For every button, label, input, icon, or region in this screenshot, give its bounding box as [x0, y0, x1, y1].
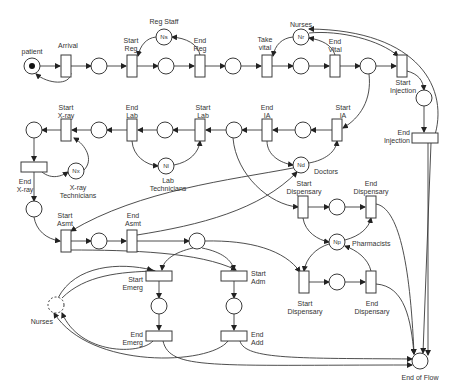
label-start-dispensary-top: Start Dispensary	[286, 180, 321, 196]
label-start-adm: Start Adm	[251, 270, 266, 286]
label-reg-staff: Reg Staff	[149, 18, 178, 26]
pharmacists-token: Np	[333, 239, 341, 245]
place	[416, 90, 432, 106]
transition-end-dispensary-bottom	[366, 271, 376, 293]
place	[329, 274, 345, 290]
place	[91, 58, 107, 74]
place	[225, 58, 241, 74]
label-start-lab: Start Lab	[196, 104, 211, 120]
label-nurses-bottom: Nurses	[31, 318, 53, 326]
place	[91, 122, 107, 138]
transition-end-dispensary-top	[366, 196, 376, 218]
doctors-token: Nd	[297, 162, 305, 168]
label-lab-technicians: Lab Technicians	[150, 177, 187, 193]
place	[157, 122, 173, 138]
place	[360, 58, 376, 74]
label-start-ia: Start IA	[336, 104, 351, 120]
label-start-reg: Start Reg	[124, 37, 139, 53]
label-end-add: End Add	[251, 331, 263, 347]
transition-start-lab	[195, 119, 205, 141]
place	[91, 233, 107, 249]
place	[158, 58, 174, 74]
label-end-injection: End Injection	[384, 129, 410, 145]
petri-net-diagram: Ns Nr Nx Nl Nd Np patient Arrival Reg St…	[0, 0, 452, 392]
place	[226, 298, 242, 314]
transition-start-dispensary-bottom	[299, 271, 309, 293]
transition-start-reg	[127, 55, 137, 77]
reg-staff-token: Ns	[160, 34, 167, 40]
transition-start-emerg	[146, 271, 172, 281]
label-end-dispensary-bottom: End Dispensary	[354, 300, 389, 316]
transition-take-vital	[262, 55, 272, 77]
label-start-injection: Start Injection	[390, 79, 416, 95]
label-nurses-top: Nurses	[290, 21, 312, 29]
label-start-asmt: Start Asmt	[57, 212, 73, 228]
label-end-xray: End X-ray	[17, 178, 34, 194]
label-end-asmt: End Asmt	[125, 212, 141, 228]
transition-end-lab	[127, 119, 137, 141]
xray-technicians-token: Nx	[72, 168, 79, 174]
nurses-token: Nr	[298, 34, 304, 40]
transition-end-injection	[412, 133, 438, 143]
label-pharmacists: Pharmacists	[352, 240, 391, 248]
place	[293, 58, 309, 74]
transition-end-xray	[21, 162, 47, 172]
transition-start-xray	[61, 119, 71, 141]
label-patient: patient	[21, 48, 42, 56]
place	[226, 122, 242, 138]
label-end-lab: End Lab	[126, 104, 138, 120]
label-end-ia: End IA	[261, 104, 273, 120]
label-take-vital: Take vital	[258, 36, 273, 52]
transition-end-asmt	[127, 230, 137, 252]
place	[189, 233, 205, 249]
label-doctors: Doctors	[314, 168, 338, 176]
transition-end-add	[221, 331, 247, 341]
place-end-of-flow	[412, 353, 428, 369]
label-end-emerg: End Emerg	[122, 331, 143, 347]
transition-start-adm	[221, 271, 247, 281]
token-dot	[29, 63, 35, 69]
label-xray-technicians: X-ray Technicians	[60, 184, 97, 200]
transition-end-ia	[262, 119, 272, 141]
label-end-of-flow: End of Flow	[402, 374, 439, 382]
label-start-xray: Start X-ray	[58, 104, 75, 120]
place	[26, 201, 42, 217]
label-start-emerg: Start Emerg	[122, 276, 143, 292]
label-end-vital: End Vital	[328, 38, 342, 54]
transition-start-injection	[397, 55, 407, 77]
place	[26, 122, 42, 138]
label-end-reg: End Reg	[194, 37, 207, 53]
place	[151, 298, 167, 314]
transition-end-vital	[330, 55, 340, 77]
transition-end-reg	[195, 55, 205, 77]
label-end-dispensary-top: End Dispensary	[353, 180, 388, 196]
transition-end-emerg	[146, 331, 172, 341]
place-nurses-bottom	[48, 297, 64, 313]
transition-start-dispensary-top	[298, 196, 308, 218]
place	[329, 199, 345, 215]
lab-technicians-token: Nl	[163, 163, 169, 169]
transition-start-ia	[332, 119, 342, 141]
label-arrival: Arrival	[58, 42, 78, 50]
transition-start-asmt	[61, 230, 71, 252]
place	[295, 122, 311, 138]
label-start-dispensary-bottom: Start Dispensary	[287, 300, 322, 316]
transition-arrival	[61, 55, 71, 77]
